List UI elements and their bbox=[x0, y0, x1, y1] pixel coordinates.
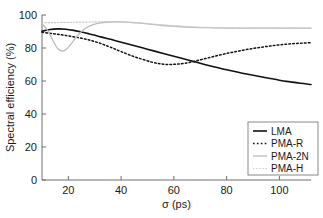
series-line-lma bbox=[42, 29, 311, 85]
x-tick-label: 20 bbox=[62, 184, 74, 196]
y-tick-label: 100 bbox=[19, 9, 37, 21]
legend-label-pma-h[interactable]: PMA-H bbox=[271, 163, 303, 174]
y-tick-label: 80 bbox=[25, 42, 37, 54]
legend-label-pma-2n[interactable]: PMA-2N bbox=[271, 151, 309, 162]
legend-label-lma[interactable]: LMA bbox=[271, 126, 292, 137]
series-line-pma-r bbox=[42, 32, 311, 64]
legend-label-pma-r[interactable]: PMA-R bbox=[271, 138, 303, 149]
y-tick-label: 60 bbox=[25, 75, 37, 87]
data-series bbox=[42, 22, 311, 85]
x-tick-label: 80 bbox=[220, 184, 232, 196]
chart-figure: 02040608010020406080100σ (ps)Spectral ef… bbox=[0, 0, 323, 218]
y-tick-label: 20 bbox=[25, 141, 37, 153]
x-axis-title: σ (ps) bbox=[162, 198, 191, 210]
y-tick-label: 0 bbox=[31, 174, 37, 186]
x-tick-label: 100 bbox=[270, 184, 288, 196]
y-axis-title: Spectral efficiency (%) bbox=[4, 43, 16, 152]
chart-legend[interactable]: LMAPMA-RPMA-2NPMA-H bbox=[248, 122, 318, 175]
x-tick-label: 60 bbox=[168, 184, 180, 196]
y-tick-label: 40 bbox=[25, 108, 37, 120]
spectral-efficiency-line-chart: 02040608010020406080100σ (ps)Spectral ef… bbox=[0, 0, 323, 218]
series-line-pma-h bbox=[42, 22, 311, 28]
x-tick-label: 40 bbox=[115, 184, 127, 196]
